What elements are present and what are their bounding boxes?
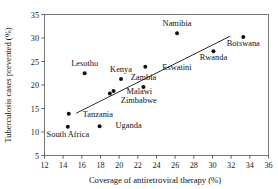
point-label-namibia: Namibia <box>163 19 192 28</box>
data-point-uganda <box>98 124 102 128</box>
data-point-zimbabwe <box>108 91 112 95</box>
point-label-uganda: Uganda <box>116 121 142 130</box>
data-point-eswatini <box>143 65 147 69</box>
point-label-tanzania: Tanzania <box>83 110 113 119</box>
x-tick-label: 22 <box>134 161 142 170</box>
x-axis-title: Coverage of antiretroviral therapy (%) <box>89 175 221 185</box>
data-point-lesotho <box>83 71 87 75</box>
x-tick-label: 20 <box>115 161 123 170</box>
point-label-malawi: Malawi <box>127 87 153 96</box>
x-tick-label: 16 <box>78 161 86 170</box>
x-tick-label: 24 <box>152 161 160 170</box>
point-label-rwanda: Rwanda <box>200 53 228 62</box>
x-tick-label: 26 <box>171 161 179 170</box>
y-tick-label: 10 <box>31 128 39 137</box>
y-tick-label: 25 <box>31 58 39 67</box>
scatter-chart-figure: 12141618202224262830323436 5101520253035… <box>0 0 278 189</box>
point-label-eswatini: Eswatini <box>162 63 192 72</box>
data-point-south-africa <box>66 125 70 129</box>
data-point-tanzania <box>67 112 71 116</box>
point-label-zimbabwe: Zimbabwe <box>121 96 157 105</box>
point-label-zambia: Zambia <box>131 73 157 82</box>
x-tick-label: 28 <box>190 161 198 170</box>
data-point-kenya <box>119 77 123 81</box>
x-tick-label: 14 <box>59 161 67 170</box>
point-label-kenya: Kenya <box>110 65 132 74</box>
point-label-south-africa: South Africa <box>47 130 90 139</box>
x-tick-label: 12 <box>40 161 48 170</box>
chart-canvas: 12141618202224262830323436 5101520253035… <box>0 0 278 189</box>
y-axis-title: Tuberculosis cases prevented (%) <box>3 27 13 143</box>
data-point-namibia <box>175 31 179 35</box>
point-label-botswana: Botswana <box>227 39 260 48</box>
x-tick-label: 30 <box>208 161 216 170</box>
y-tick-label: 15 <box>31 105 39 114</box>
x-tick-label: 34 <box>246 161 254 170</box>
y-tick-label: 35 <box>31 11 39 20</box>
x-tick-label: 18 <box>96 161 104 170</box>
y-tick-label: 30 <box>31 34 39 43</box>
point-label-lesotho: Lesotho <box>71 59 98 68</box>
x-tick-label: 36 <box>264 161 272 170</box>
data-point-malawi <box>112 89 116 93</box>
x-tick-label: 32 <box>227 161 235 170</box>
y-tick-label: 5 <box>35 152 39 161</box>
y-tick-label: 20 <box>31 81 39 90</box>
